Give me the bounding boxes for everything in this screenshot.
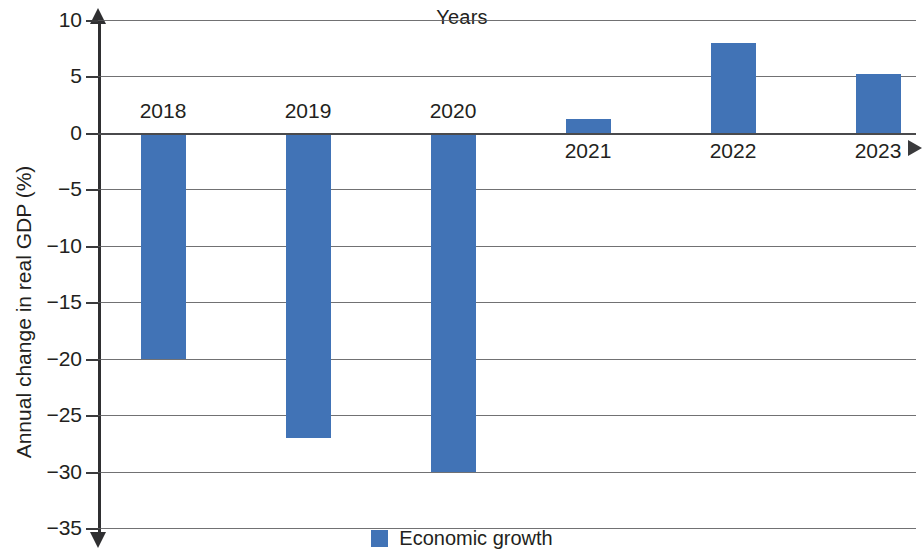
y-tick-label: 0: [70, 121, 82, 145]
bar-category-label-2023: 2023: [833, 139, 923, 163]
gridline: [98, 189, 916, 190]
y-tick-label: 10: [59, 8, 82, 32]
plot-area: 1050−5−10−15−20−25−30−35 201820192020202…: [98, 20, 916, 528]
bar-chart: Years Annual change in real GDP (%) 1050…: [0, 0, 924, 557]
bar-2020[interactable]: [431, 133, 476, 472]
y-tick-label: 5: [70, 64, 82, 88]
gridline: [98, 20, 916, 21]
y-tick-mark: [86, 472, 98, 474]
legend-label-economic-growth: Economic growth: [399, 527, 552, 550]
gridline: [98, 415, 916, 416]
y-tick-label: −25: [46, 403, 82, 427]
bar-category-label-2018: 2018: [118, 99, 208, 123]
y-tick-label: −15: [46, 290, 82, 314]
y-tick-mark: [86, 189, 98, 191]
gridline: [98, 76, 916, 77]
bar-2021[interactable]: [566, 119, 611, 133]
legend: Economic growth: [0, 527, 924, 550]
y-tick-mark: [86, 415, 98, 417]
y-tick-mark: [86, 359, 98, 361]
zero-gridline: [98, 133, 916, 135]
y-tick-mark: [86, 20, 98, 22]
y-tick-label: −20: [46, 347, 82, 371]
y-tick-mark: [86, 76, 98, 78]
bar-category-label-2019: 2019: [263, 99, 353, 123]
bar-2023[interactable]: [856, 74, 901, 133]
gridline: [98, 302, 916, 303]
bar-2022[interactable]: [711, 43, 756, 133]
y-tick-mark: [86, 302, 98, 304]
y-tick-mark: [86, 133, 98, 135]
y-axis-title: Annual change in real GDP (%): [12, 92, 36, 532]
legend-swatch-economic-growth: [371, 530, 388, 547]
gridline: [98, 472, 916, 473]
bar-2018[interactable]: [141, 133, 186, 359]
y-tick-label: −5: [58, 177, 82, 201]
y-tick-mark: [86, 246, 98, 248]
y-tick-label: −10: [46, 234, 82, 258]
bar-2019[interactable]: [286, 133, 331, 438]
gridline: [98, 246, 916, 247]
gridline: [98, 359, 916, 360]
y-tick-label: −30: [46, 460, 82, 484]
bar-category-label-2020: 2020: [408, 99, 498, 123]
bar-category-label-2021: 2021: [543, 139, 633, 163]
bar-category-label-2022: 2022: [688, 139, 778, 163]
